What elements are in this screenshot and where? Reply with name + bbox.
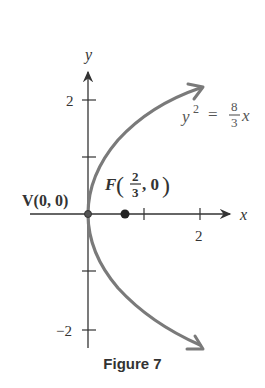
svg-text:=: = — [208, 105, 218, 124]
y-tick-label-neg2: −2 — [56, 323, 72, 339]
svg-text:2: 2 — [132, 169, 139, 184]
svg-text:y: y — [180, 107, 190, 126]
parabola-figure: y x 2 −2 2 V(0, 0) F ( 2 3 , 0 ) y 2 = 8… — [0, 0, 265, 388]
x-tick-label-2: 2 — [195, 228, 203, 244]
svg-text:): ) — [162, 172, 170, 198]
focus-point — [121, 210, 130, 219]
svg-text:x: x — [241, 106, 250, 125]
vertex-point — [85, 211, 92, 218]
y-tick-label-2: 2 — [66, 93, 74, 109]
figure-caption: Figure 7 — [0, 355, 265, 372]
focus-label: F ( 2 3 , 0 ) — [104, 169, 170, 200]
svg-text:8: 8 — [231, 99, 238, 114]
vertex-label: V(0, 0) — [22, 192, 68, 210]
svg-text:, 0: , 0 — [142, 175, 159, 194]
svg-text:3: 3 — [132, 185, 139, 200]
svg-text:(: ( — [116, 172, 124, 198]
svg-text:3: 3 — [231, 115, 238, 130]
x-axis-label: x — [239, 206, 247, 223]
equation-label: y 2 = 8 3 x — [180, 99, 250, 130]
y-axis-label: y — [83, 46, 93, 64]
svg-text:2: 2 — [193, 102, 199, 116]
